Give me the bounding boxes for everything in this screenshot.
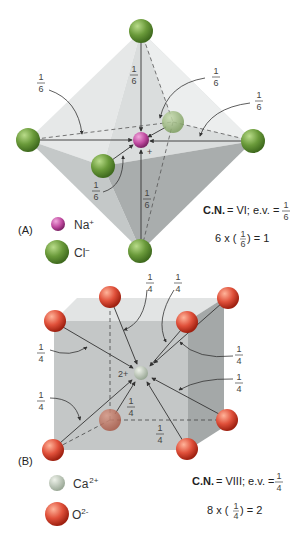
svg-text:8 x (: 8 x (	[207, 504, 229, 516]
svg-text:1: 1	[38, 390, 43, 400]
svg-text:1: 1	[276, 471, 281, 481]
chloride-sphere-bottom	[128, 239, 152, 263]
panel-a-label: (A)	[18, 224, 33, 236]
chloride-sphere-top	[129, 19, 153, 43]
svg-text:1: 1	[38, 342, 43, 352]
oxide-sphere-back-top-right	[217, 287, 239, 309]
svg-text:1: 1	[38, 72, 43, 82]
oxide-legend-label: O2-	[72, 507, 89, 522]
svg-text:1: 1	[131, 64, 136, 74]
calcium-legend-icon	[49, 475, 65, 491]
oxide-legend-icon	[45, 502, 69, 526]
oxide-sphere-front-bottom-left	[42, 439, 64, 461]
svg-text:1: 1	[157, 423, 162, 433]
svg-text:6 x (: 6 x (	[215, 232, 237, 244]
svg-text:6: 6	[38, 84, 43, 94]
svg-text:1: 1	[93, 180, 98, 190]
oxide-sphere-front-top-left	[44, 310, 66, 332]
chloride-legend-icon	[45, 240, 69, 264]
sodium-legend-label: Na+	[74, 218, 94, 232]
svg-text:4: 4	[236, 356, 241, 366]
svg-text:6: 6	[240, 239, 245, 249]
svg-text:4: 4	[157, 435, 162, 445]
chloride-sphere-right	[241, 129, 265, 153]
svg-text:4: 4	[38, 402, 43, 412]
sodium-sphere-center	[133, 132, 149, 148]
svg-text:1: 1	[236, 372, 241, 382]
chloride-legend-label: Cl−	[74, 246, 90, 260]
svg-text:C.N.= VIII;e.v. =: C.N.= VIII;e.v. =	[192, 475, 274, 487]
oxide-sphere-front-bottom-right	[176, 438, 198, 460]
svg-text:1: 1	[128, 396, 133, 406]
coordination-equation-b: C.N.= VIII;e.v. = 1 4 8 x ( 1 4 ) = 2	[192, 471, 283, 521]
svg-text:1: 1	[175, 272, 180, 282]
sodium-legend-icon	[51, 217, 65, 231]
svg-text:1: 1	[240, 229, 245, 239]
oxide-sphere-back-top-left	[99, 286, 121, 308]
chloride-sphere-left	[16, 128, 40, 152]
chloride-sphere-back	[162, 111, 184, 133]
svg-text:6: 6	[213, 78, 218, 88]
svg-text:4: 4	[175, 284, 180, 294]
svg-text:4: 4	[147, 284, 152, 294]
svg-text:4: 4	[38, 354, 43, 364]
svg-text:) = 2: ) = 2	[240, 504, 262, 516]
svg-text:6: 6	[256, 102, 261, 112]
svg-text:1: 1	[233, 501, 238, 511]
svg-text:4: 4	[236, 384, 241, 394]
svg-text:6: 6	[144, 200, 149, 210]
svg-text:1: 1	[236, 344, 241, 354]
oxide-sphere-back-bottom-left	[99, 409, 121, 431]
cube-caf2: 2+	[42, 286, 239, 461]
svg-text:1: 1	[144, 188, 149, 198]
svg-text:6: 6	[93, 192, 98, 202]
calcium-sphere-center	[134, 366, 148, 380]
coordination-equation-a: C.N.= VI;e.v. = 1 6 6 x ( 1 6 ) = 1	[203, 200, 290, 249]
svg-text:) = 1: ) = 1	[247, 232, 269, 244]
svg-text:1: 1	[147, 272, 152, 282]
svg-text:6: 6	[283, 212, 288, 222]
center-charge-label: +	[147, 147, 152, 157]
svg-text:4: 4	[233, 511, 238, 521]
panel-b-label: (B)	[18, 455, 33, 467]
svg-text:1: 1	[213, 66, 218, 76]
chloride-sphere-front	[91, 154, 115, 178]
svg-text:C.N.= VI;e.v. =: C.N.= VI;e.v. =	[203, 204, 279, 216]
calcium-legend-label: Ca2+	[73, 476, 99, 491]
oxide-sphere-back-bottom-right	[216, 409, 238, 431]
crystal-coordination-figure: + 16 16 16 16 16 16 (A) Na+ Cl− C.N.= VI…	[0, 0, 304, 544]
oxide-sphere-front-top-right	[176, 311, 198, 333]
svg-text:1: 1	[283, 200, 288, 210]
svg-text:4: 4	[128, 408, 133, 418]
svg-text:1: 1	[256, 90, 261, 100]
center-charge-label-b: 2+	[118, 369, 128, 379]
svg-text:6: 6	[131, 76, 136, 86]
svg-text:4: 4	[276, 483, 281, 493]
